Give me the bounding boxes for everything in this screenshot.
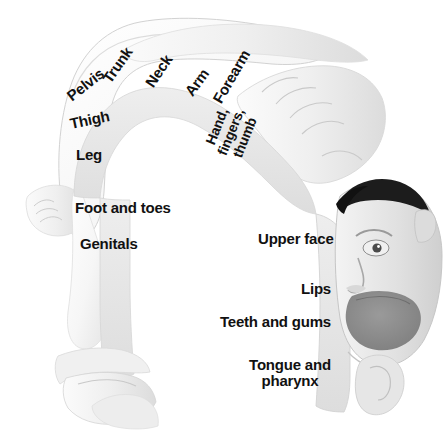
label-teeth-and-gums: Teeth and gums [178,314,331,330]
label-foot-and-toes: Foot and toes [75,200,171,216]
face-shape [335,179,442,368]
sensory-homunculus-figure: Pelvis Trunk Neck Arm Forearm Hand, fing… [0,0,448,437]
label-tongue-line2: pharynx [240,373,340,389]
label-tongue-line1: Tongue and [240,357,340,373]
label-leg: Leg [76,147,102,163]
homunculus-illustration [0,0,448,437]
label-genitals: Genitals [80,236,138,252]
label-upper-face: Upper face [258,231,334,247]
label-lips: Lips [255,281,331,297]
tongue-and-pharynx-shape [355,355,404,415]
label-tongue-and-pharynx: Tongue and pharynx [240,357,340,389]
